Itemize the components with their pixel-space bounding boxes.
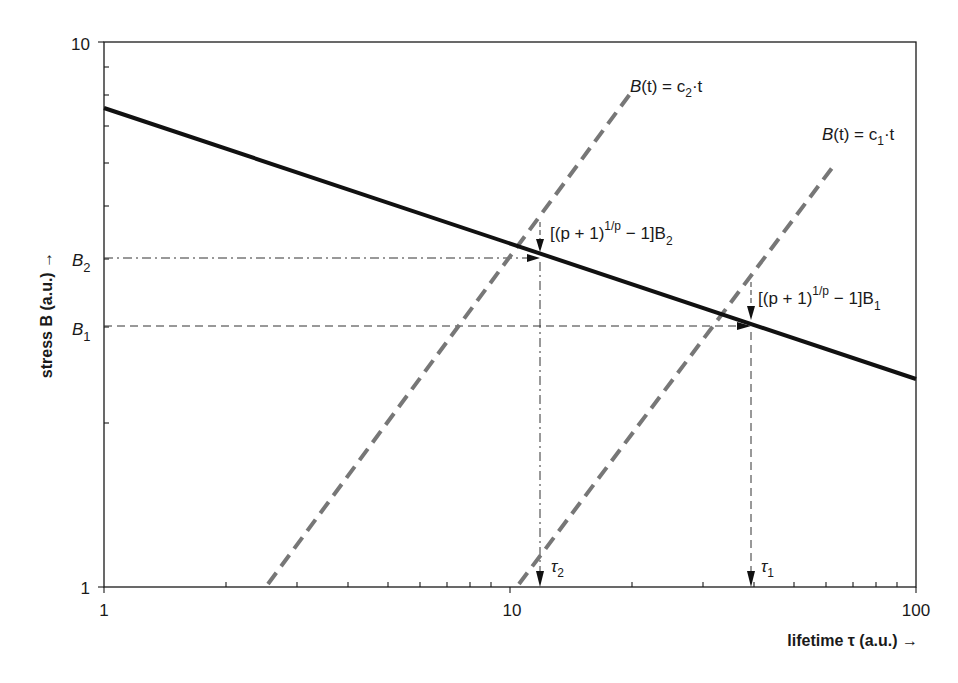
label-tau1: τ1 xyxy=(761,557,774,580)
y-tick-label-1: 1 xyxy=(81,579,90,598)
annotation-b2: [(p + 1)1/p − 1]B2 xyxy=(550,219,673,248)
label-c1-line: B(t) = c1·t xyxy=(822,125,895,148)
b1-reference-lines xyxy=(104,326,751,572)
b1-annotation-arrowhead xyxy=(747,306,755,320)
y-label-b2: B2 xyxy=(72,251,91,275)
b2-arrow-right xyxy=(527,254,540,262)
annotation-b1: [(p + 1)1/p − 1]B1 xyxy=(758,284,881,313)
b2-annotation-arrowhead xyxy=(536,239,544,252)
chart-canvas: 10 1 1 10 100 B2 B1 stress B (a.u.) → li… xyxy=(0,0,958,683)
series-lifetime-line xyxy=(104,108,916,379)
tau2-arrow-down xyxy=(536,571,544,587)
x-tick-label-1: 1 xyxy=(99,601,108,620)
y-tick-label-10: 10 xyxy=(71,35,90,54)
plot-frame xyxy=(104,42,916,587)
x-axis-title: lifetime τ (a.u.) → xyxy=(787,632,918,649)
x-tick-label-10: 10 xyxy=(503,601,522,620)
y-axis-title: stress B (a.u.) → xyxy=(38,252,55,378)
label-c2-line: B(t) = c2·t xyxy=(630,77,703,100)
x-tick-label-100: 100 xyxy=(902,601,930,620)
label-tau2: τ2 xyxy=(551,557,564,580)
b2-reference-lines xyxy=(104,258,540,572)
y-label-b1: B1 xyxy=(72,320,91,344)
